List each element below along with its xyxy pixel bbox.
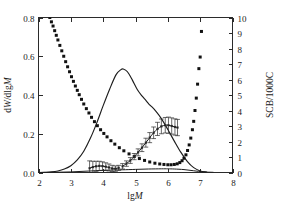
y2-tick-label: 9	[238, 29, 243, 39]
scb-data-point	[192, 120, 195, 123]
series-2	[48, 16, 203, 166]
x-tick-label: 8	[231, 178, 236, 188]
scb-data-point	[85, 107, 88, 110]
scb-data-point	[118, 146, 121, 149]
scb-data-point	[106, 135, 109, 138]
scb-data-point	[186, 149, 189, 152]
scb-data-point	[58, 44, 61, 47]
scb-data-point	[138, 157, 141, 160]
y2-tick-label: 1	[238, 153, 243, 163]
plot-frame	[39, 18, 233, 173]
scb-data-point	[153, 162, 156, 165]
scb-data-point	[60, 49, 63, 52]
y2-tick-label: 7	[238, 60, 243, 70]
scb-data-point	[176, 162, 179, 165]
scb-data-point	[196, 83, 199, 86]
x-tick-label: 7	[198, 178, 203, 188]
chart-plot: 2345678 0.00.20.40.60.8 012345678910 lgM…	[0, 0, 283, 207]
y-axis-right-title: SCB/1000C	[265, 72, 275, 118]
y-axis-left-title: dW/dlgM	[3, 76, 13, 112]
x-axis-ticks	[40, 18, 234, 173]
scb-data-point	[99, 128, 102, 131]
series-3	[87, 161, 121, 176]
scb-data-point	[80, 98, 83, 101]
scb-data-point	[193, 109, 196, 112]
scb-data-point	[199, 56, 202, 59]
scb-data-point	[76, 89, 79, 92]
data-series-layer	[39, 16, 214, 176]
scb-data-point	[96, 124, 99, 127]
scb-data-point	[70, 75, 73, 78]
scb-data-point	[162, 163, 165, 166]
y-axis-left-ticks	[39, 19, 43, 174]
y-tick-label: 0.6	[23, 52, 35, 62]
scb-data-point	[72, 80, 75, 83]
x-tick-label: 2	[37, 178, 42, 188]
scb-data-point	[66, 65, 69, 68]
y2-tick-label: 8	[238, 45, 243, 55]
svg-text:dW/dlgM: dW/dlgM	[3, 76, 13, 112]
y2-tick-label: 0	[238, 169, 243, 179]
y2-tick-label: 3	[238, 122, 243, 132]
x-axis-title: lgM	[127, 191, 143, 201]
y-axis-right-tick-labels: 012345678910	[238, 14, 248, 179]
scb-data-point	[93, 120, 96, 123]
scb-data-point	[158, 162, 161, 165]
scb-data-point	[166, 163, 169, 166]
scb-data-point	[170, 163, 173, 166]
series-0	[39, 69, 207, 173]
y-tick-label: 0.8	[23, 14, 35, 24]
y2-tick-label: 6	[238, 76, 243, 86]
scb-data-point	[74, 85, 77, 88]
scb-data-point	[90, 116, 93, 119]
scb-data-point	[122, 149, 125, 152]
scb-data-point	[55, 34, 58, 37]
x-axis-tick-labels: 2345678	[37, 178, 236, 188]
y-tick-label: 0.0	[23, 169, 35, 179]
scb-data-point	[191, 128, 194, 131]
scb-data-point	[78, 93, 81, 96]
scb-data-point	[189, 137, 192, 140]
y2-tick-label: 5	[238, 91, 243, 101]
scb-data-point	[68, 70, 71, 73]
scb-data-point	[148, 160, 151, 163]
scb-data-point	[143, 159, 146, 162]
scb-data-point	[64, 60, 67, 63]
scb-data-point	[197, 67, 200, 70]
scb-data-point	[82, 102, 85, 105]
scb-data-point	[53, 29, 56, 32]
x-tick-label: 5	[134, 178, 139, 188]
y-tick-label: 0.2	[23, 130, 34, 140]
scb-data-point	[195, 97, 198, 100]
y2-tick-label: 10	[238, 14, 248, 24]
scb-data-point	[48, 16, 51, 19]
scb-data-point	[183, 157, 186, 160]
scb-data-point	[188, 143, 191, 146]
scb-data-point	[52, 25, 55, 28]
scb-data-point	[109, 139, 112, 142]
scb-data-point	[87, 111, 90, 114]
measured-trend-line	[90, 166, 119, 169]
x-tick-label: 3	[69, 178, 74, 188]
scb-data-point	[50, 20, 53, 23]
scb-data-point	[102, 132, 105, 135]
scb-data-point	[56, 38, 59, 41]
mwd-curve	[39, 69, 207, 173]
scb-data-point	[173, 163, 176, 166]
y-axis-right-ticks	[229, 19, 233, 174]
scb-data-point	[128, 152, 131, 155]
y-axis-left-tick-labels: 0.00.20.40.60.8	[23, 14, 35, 179]
chart-figure: 2345678 0.00.20.40.60.8 012345678910 lgM…	[0, 0, 283, 207]
y2-tick-label: 4	[238, 107, 243, 117]
scb-data-point	[113, 143, 116, 146]
svg-text:lgM: lgM	[127, 191, 143, 201]
y-tick-label: 0.4	[23, 91, 35, 101]
y2-tick-label: 2	[238, 138, 243, 148]
x-tick-label: 6	[166, 178, 171, 188]
scb-data-point	[62, 55, 65, 58]
scb-data-point	[200, 30, 203, 33]
svg-text:SCB/1000C: SCB/1000C	[265, 72, 275, 118]
scb-data-point	[184, 153, 187, 156]
x-tick-label: 4	[101, 178, 106, 188]
